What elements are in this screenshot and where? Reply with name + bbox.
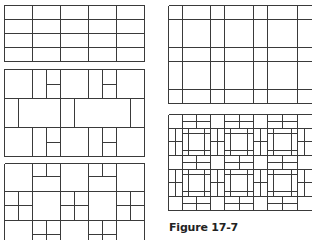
figure-caption: Figure 17-7 bbox=[169, 221, 238, 234]
panel-2 bbox=[5, 70, 145, 157]
panel-3 bbox=[5, 164, 145, 240]
panel-5 bbox=[169, 115, 313, 211]
panel-1 bbox=[5, 6, 145, 62]
figure-illustration bbox=[0, 0, 312, 240]
panel-4 bbox=[169, 6, 313, 104]
